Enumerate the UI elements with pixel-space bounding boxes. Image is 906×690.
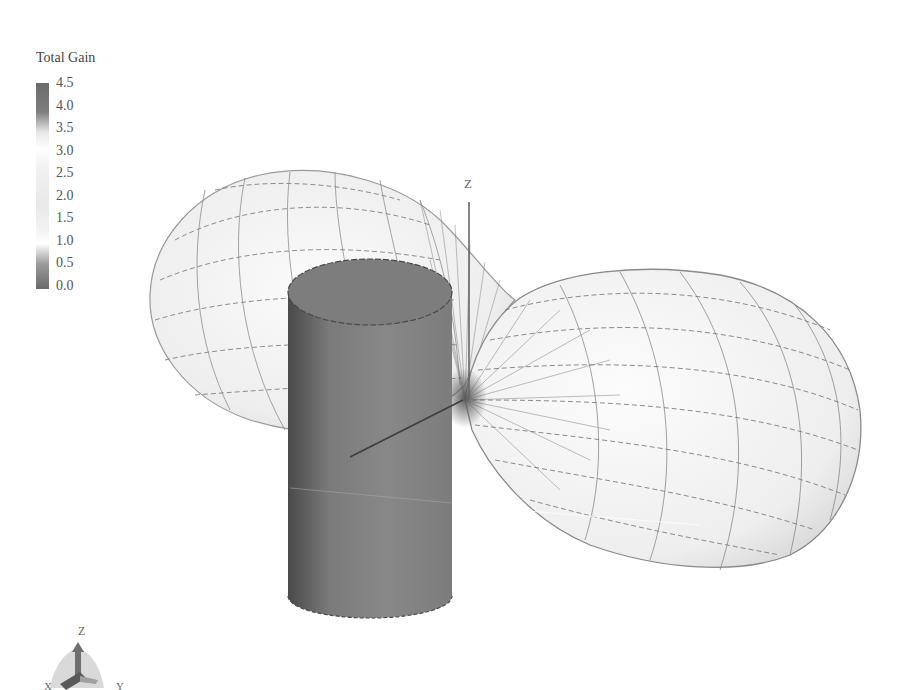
triad-y-label: Y: [116, 680, 124, 690]
orientation-triad: [50, 642, 104, 690]
z-axis-label: Z: [464, 176, 472, 192]
radiation-pattern-lobe-right: [465, 269, 861, 570]
cylinder: [288, 259, 452, 618]
triad-x-label: X: [44, 680, 52, 690]
triad-z-label: Z: [78, 624, 85, 639]
plot-area: [0, 0, 906, 690]
